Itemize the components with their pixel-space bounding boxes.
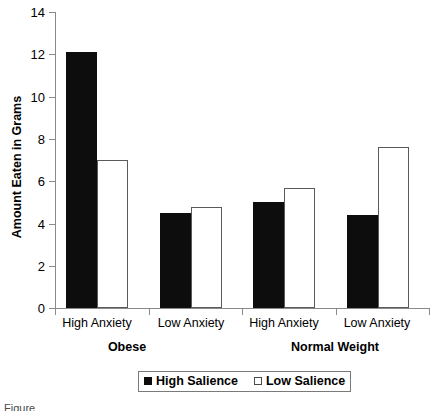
figure-caption: Figure [4,402,35,411]
y-tick-label-6: 6 [5,175,45,188]
group-label-obese: Obese [57,340,197,355]
bar-obese-low-anxiety-low-salience [191,207,222,308]
y-tick-label-10: 10 [5,91,45,104]
chart-legend: High Salience Low Salience [138,371,351,392]
bar-normal-weight-low-anxiety-high-salience [347,215,378,308]
bar-normal-weight-high-anxiety-low-salience [284,188,315,309]
legend-swatch-filled-icon [144,377,152,385]
legend-entry-high-salience: High Salience [144,374,238,388]
y-tick-label-8: 8 [5,133,45,146]
y-tick-label-2: 2 [5,260,45,273]
x-tick-2 [242,309,243,315]
x-label-normal-weight-low-anxiety: Low Anxiety [322,316,432,331]
x-tick-end [429,309,430,315]
y-tick-label-0: 0 [5,302,45,315]
y-tick-label-14: 14 [5,6,45,19]
legend-entry-low-salience: Low Salience [254,374,345,388]
legend-label-low-salience: Low Salience [266,374,345,388]
bar-normal-weight-high-anxiety-high-salience [253,202,284,308]
bar-obese-high-anxiety-low-salience [97,160,128,308]
x-tick-3 [336,309,337,315]
group-label-normal-weight: Normal Weight [265,340,405,355]
bar-obese-high-anxiety-high-salience [66,52,97,308]
bar-normal-weight-low-anxiety-low-salience [378,147,409,308]
legend-swatch-open-icon [254,377,262,385]
y-tick-label-4: 4 [5,218,45,231]
bar-obese-low-anxiety-high-salience [160,213,191,308]
x-tick-1 [149,309,150,315]
legend-label-high-salience: High Salience [156,374,238,388]
y-tick-label-12: 12 [5,48,45,61]
plot-area [55,12,430,308]
figure-container: Amount Eaten in Grams 0 2 4 6 8 10 12 14 [0,0,440,411]
x-tick-start [55,309,56,315]
